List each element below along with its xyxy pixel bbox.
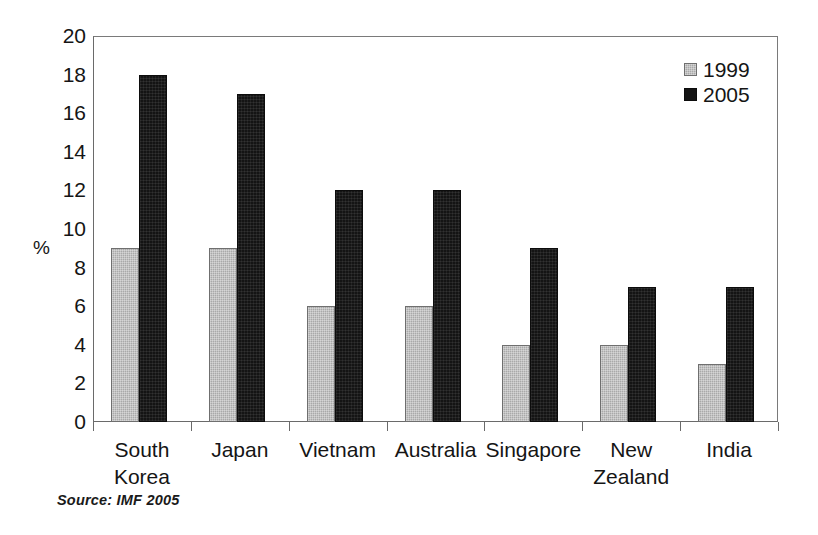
x-axis-tick bbox=[93, 422, 94, 431]
y-tick-label: 18 bbox=[0, 64, 86, 85]
bar-1999 bbox=[111, 248, 139, 422]
bars-layer bbox=[93, 36, 778, 422]
bar-2005 bbox=[433, 190, 461, 422]
bar-group bbox=[484, 36, 582, 422]
bar-1999 bbox=[405, 306, 433, 422]
x-tick-label: Japan bbox=[191, 436, 289, 463]
bar-group bbox=[582, 36, 680, 422]
bar-group bbox=[93, 36, 191, 422]
y-tick-label: 4 bbox=[0, 334, 86, 355]
x-tick-label: South Korea bbox=[93, 436, 191, 490]
x-axis-tick bbox=[387, 422, 388, 431]
y-tick-label: 10 bbox=[0, 218, 86, 239]
x-axis-tick bbox=[778, 422, 779, 431]
legend-label-1999: 1999 bbox=[703, 59, 750, 80]
y-tick-label: 8 bbox=[0, 257, 86, 278]
y-tick-label: 20 bbox=[0, 25, 86, 46]
x-axis-tick bbox=[582, 422, 583, 431]
y-tick-label: 16 bbox=[0, 102, 86, 123]
bar-1999 bbox=[600, 345, 628, 422]
x-tick-label: New Zealand bbox=[582, 436, 680, 490]
y-tick-label: 14 bbox=[0, 141, 86, 162]
x-axis: South KoreaJapanVietnamAustraliaSingapor… bbox=[93, 436, 778, 498]
legend-item-2005: 2005 bbox=[684, 82, 780, 107]
legend-swatch-1999 bbox=[684, 63, 697, 76]
bar-2005 bbox=[237, 94, 265, 422]
chart-legend: 1999 2005 bbox=[684, 57, 780, 107]
bar-2005 bbox=[139, 75, 167, 422]
x-tick-label: India bbox=[680, 436, 778, 463]
x-axis-tick bbox=[484, 422, 485, 431]
y-tick-label: 12 bbox=[0, 179, 86, 200]
y-tick-label: 6 bbox=[0, 295, 86, 316]
bar-1999 bbox=[698, 364, 726, 422]
bar-2005 bbox=[335, 190, 363, 422]
x-tick-label: Australia bbox=[387, 436, 485, 463]
legend-swatch-2005 bbox=[684, 88, 697, 101]
bar-chart-figure: 20181614121086420 % South KoreaJapanViet… bbox=[0, 0, 818, 535]
y-tick-label: 2 bbox=[0, 372, 86, 393]
bar-1999 bbox=[502, 345, 530, 422]
bar-group bbox=[191, 36, 289, 422]
bar-2005 bbox=[530, 248, 558, 422]
x-tick-label: Singapore bbox=[484, 436, 582, 463]
x-tick-label: Vietnam bbox=[289, 436, 387, 463]
legend-label-2005: 2005 bbox=[703, 84, 750, 105]
x-axis-tick bbox=[191, 422, 192, 431]
bar-group bbox=[289, 36, 387, 422]
bar-1999 bbox=[307, 306, 335, 422]
bar-group bbox=[387, 36, 485, 422]
source-note: Source: IMF 2005 bbox=[57, 492, 179, 508]
bar-2005 bbox=[628, 287, 656, 422]
y-axis: 20181614121086420 bbox=[0, 0, 86, 535]
x-axis-tick bbox=[289, 422, 290, 431]
bar-2005 bbox=[726, 287, 754, 422]
bar-1999 bbox=[209, 248, 237, 422]
y-tick-label: 0 bbox=[0, 411, 86, 432]
y-axis-title: % bbox=[33, 238, 50, 257]
x-axis-tick bbox=[680, 422, 681, 431]
legend-item-1999: 1999 bbox=[684, 57, 780, 82]
